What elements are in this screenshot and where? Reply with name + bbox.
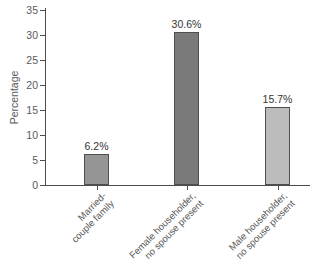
x-axis-label-line: Female householder, [127, 190, 198, 261]
bar-value-label: 6.2% [67, 140, 127, 152]
bar-male-householder [265, 107, 290, 186]
y-tick-label: 15 [14, 104, 38, 116]
y-tick-mark [40, 110, 45, 111]
y-tick-label: 25 [14, 54, 38, 66]
x-tick-mark [278, 186, 279, 190]
y-tick-mark [40, 135, 45, 136]
y-tick-label: 5 [14, 154, 38, 166]
y-tick-mark [40, 160, 45, 161]
x-axis-label-married-couple-family: Married- couple family [61, 190, 116, 245]
bar-married-couple-family [84, 154, 109, 185]
y-tick-mark [40, 35, 45, 36]
y-axis-line [45, 8, 46, 186]
x-tick-mark [187, 186, 188, 190]
x-axis-label-female-householder: Female householder, no spouse present [127, 190, 205, 268]
x-axis-label-male-householder: Male householder, no spouse present [226, 190, 297, 261]
y-tick-label: 35 [14, 4, 38, 16]
y-tick-mark [40, 185, 45, 186]
y-tick-label: 10 [14, 129, 38, 141]
y-tick-label: 20 [14, 79, 38, 91]
bar-female-householder [174, 32, 199, 185]
y-tick-label: 30 [14, 29, 38, 41]
y-tick-mark [40, 10, 45, 11]
x-axis-line [45, 185, 310, 186]
y-tick-label: 0 [14, 179, 38, 191]
x-tick-mark [97, 186, 98, 190]
bar-value-label: 30.6% [157, 18, 217, 30]
y-tick-mark [40, 85, 45, 86]
y-tick-mark [40, 60, 45, 61]
bar-value-label: 15.7% [248, 93, 308, 105]
bar-chart-figure: Percentage 05101520253035 6.2% 30.6% 15.… [0, 0, 317, 277]
